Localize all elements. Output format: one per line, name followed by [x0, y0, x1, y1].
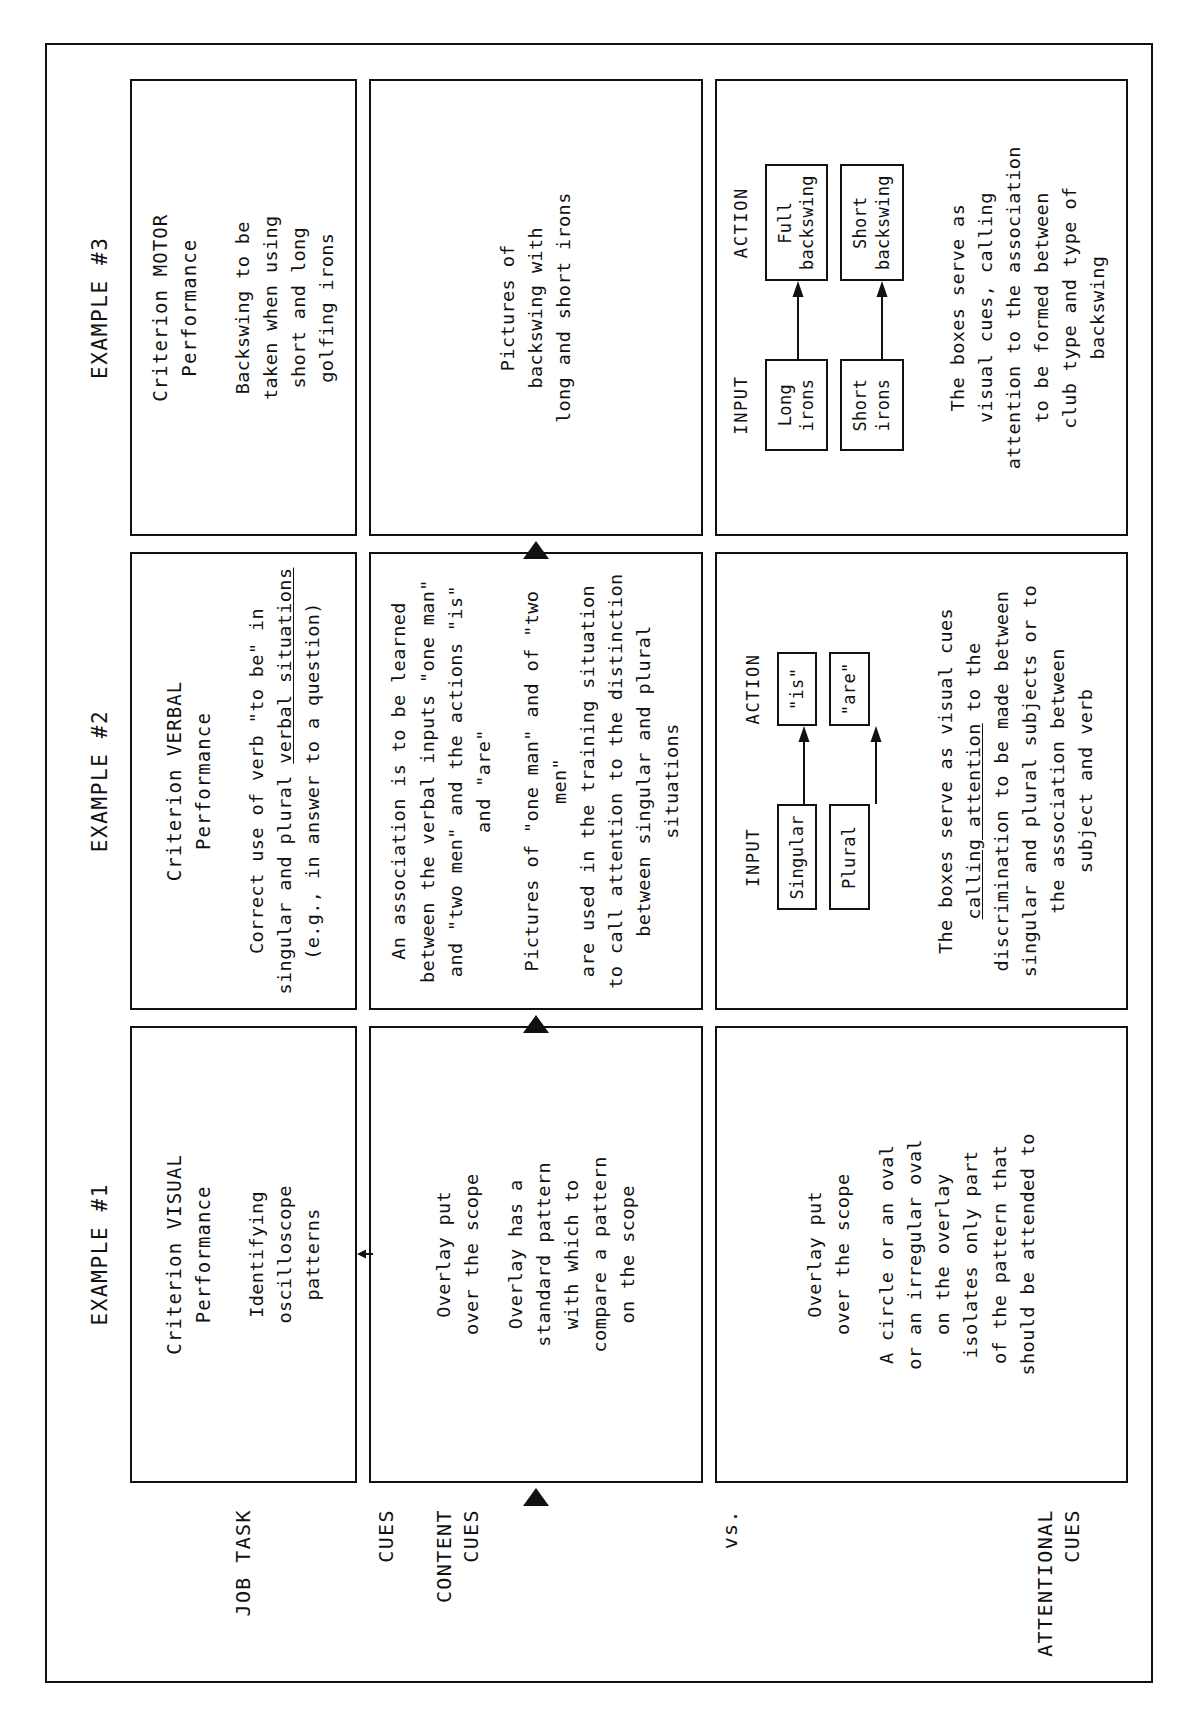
- cell-job-task-example-1: Criterion VISUAL Performance Identifying…: [130, 1026, 357, 1483]
- row-label-attentional-group: vs. ATTENTIONAL CUES: [715, 1499, 1129, 1649]
- criterion-title-3: Criterion MOTOR Performance: [146, 214, 203, 402]
- arrow-right-icon: [797, 726, 811, 804]
- action-node-is: "is": [777, 652, 818, 727]
- arrow-up-icon: [357, 1247, 373, 1261]
- cell-attentional-cues-example-2: INPUT Singular Plural: [715, 552, 1129, 1009]
- connector-row: [774, 726, 834, 804]
- arrow-right-icon: [521, 539, 551, 561]
- row-label-cues: CUES: [373, 1509, 400, 1563]
- input-header-2: INPUT: [743, 828, 763, 887]
- connector-row: [846, 281, 918, 359]
- cell-job-task-example-2: Criterion VERBAL Performance Correct use…: [130, 552, 357, 1009]
- cell-attentional-cues-example-3: INPUT Long irons Short irons: [715, 79, 1129, 536]
- connector-column-2: [743, 726, 906, 804]
- action-node-short-backswing: Short backswing: [840, 164, 904, 281]
- input-node-plural: Plural: [829, 804, 870, 910]
- criterion-title-2: Criterion VERBAL Performance: [160, 681, 217, 882]
- input-node-long-irons: Long irons: [765, 359, 829, 451]
- action-header-3: ACTION: [731, 187, 751, 258]
- connector-column-3: [731, 281, 918, 359]
- criterion-title-1: Criterion VISUAL Performance: [160, 1154, 217, 1355]
- row-label-job-task: JOB TASK: [130, 1499, 357, 1649]
- arrow-right-icon: [521, 1486, 551, 1508]
- connector-row: [762, 281, 834, 359]
- arrow-right-icon: [875, 281, 889, 359]
- input-node-short-irons: Short irons: [840, 359, 904, 451]
- criterion-body-2-underlined: verbal situations: [274, 568, 295, 764]
- attentional-cue-3-caption: The boxes serve as visual cues, calling …: [944, 146, 1113, 469]
- cell-attentional-cues-example-1: Overlay put over the scope A circle or a…: [715, 1026, 1129, 1483]
- action-column-3: ACTION Full backswing Short backswing: [731, 164, 905, 281]
- caption-2-underlined: calling attention: [963, 723, 984, 919]
- content-cue-2-para-1: An association is to be learned between …: [385, 579, 497, 983]
- content-cue-2-para-2: Pictures of "one man" and of "two men" a…: [518, 566, 687, 995]
- row-label-content-cues: CONTENT CUES: [431, 1509, 485, 1603]
- input-action-diagram-2: INPUT Singular Plural: [743, 652, 906, 911]
- action-node-are: "are": [829, 652, 870, 727]
- criterion-body-2: Correct use of verb "to be" in singular …: [243, 568, 327, 995]
- arrow-right-icon: [521, 1013, 551, 1035]
- cell-content-cues-example-2: An association is to be learned between …: [369, 552, 702, 1009]
- criterion-body-2-post: (e.g., in answer to a question): [302, 602, 323, 960]
- rotated-page-canvas: EXAMPLE #1 EXAMPLE #2 EXAMPLE #3 JOB TAS…: [0, 0, 1194, 1721]
- content-cue-3-para-1: Pictures of backswing with long and shor…: [494, 192, 578, 423]
- cell-content-cues-example-3: Pictures of backswing with long and shor…: [369, 79, 702, 536]
- column-header-example-3: EXAMPLE #3: [72, 79, 118, 536]
- row-label-vs: vs.: [717, 1509, 744, 1549]
- action-node-full-backswing: Full backswing: [765, 164, 829, 281]
- column-header-example-2: EXAMPLE #2: [72, 552, 118, 1009]
- row-label-cues-content-group: CUES CONTENT CUES: [369, 1499, 702, 1649]
- arrow-right-icon: [869, 726, 883, 804]
- connector-row: [846, 726, 906, 804]
- arrow-right-icon: [791, 281, 805, 359]
- caption-2-pre: The boxes serve as visual cues: [935, 608, 956, 954]
- cell-content-cues-example-1: Overlay put over the scope Overlay has a…: [369, 1026, 702, 1483]
- attentional-cue-1-para-2: A circle or an oval or an irregular oval…: [873, 1133, 1042, 1375]
- content-cue-1-para-1: Overlay put over the scope: [430, 1174, 486, 1336]
- content-cue-1-para-2: Overlay has a standard pattern with whic…: [502, 1156, 643, 1352]
- column-header-example-1: EXAMPLE #1: [72, 1026, 118, 1483]
- cell-job-task-example-3: Criterion MOTOR Performance Backswing to…: [130, 79, 357, 536]
- input-node-singular: Singular: [777, 804, 818, 910]
- input-column-2: INPUT Singular Plural: [743, 804, 871, 910]
- input-header-3: INPUT: [731, 376, 751, 435]
- criterion-body-1: Identifying oscilloscope patterns: [243, 1185, 327, 1323]
- criterion-body-3: Backswing to be taken when using short a…: [229, 215, 341, 400]
- row-label-attentional-cues: ATTENTIONAL CUES: [1032, 1509, 1086, 1657]
- attentional-cue-1-para-1: Overlay put over the scope: [801, 1174, 857, 1336]
- input-column-3: INPUT Long irons Short irons: [731, 359, 905, 451]
- cue-comparison-matrix: EXAMPLE #1 EXAMPLE #2 EXAMPLE #3 JOB TAS…: [72, 79, 1127, 1649]
- action-column-2: ACTION "is" "are": [743, 652, 871, 727]
- attentional-cue-2-caption: The boxes serve as visual cues calling a…: [932, 585, 1101, 977]
- action-header-2: ACTION: [743, 653, 763, 724]
- input-action-diagram-3: INPUT Long irons Short irons: [731, 164, 918, 451]
